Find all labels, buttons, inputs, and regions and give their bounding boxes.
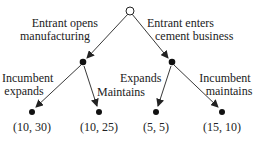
branch-label-entrant-enters-cement: Entrant enters cement business [147,17,233,43]
label-line: expands [2,85,46,98]
branch-label-expands: Expands [120,72,161,85]
label-line: manufacturing [20,30,90,43]
payoff-4: (15, 10) [197,121,247,134]
label-line: cement business [155,30,233,43]
branch-label-incumbent-expands: Incumbent expands [2,72,46,98]
branch-label-entrant-opens-manufacturing: Entrant opens manufacturing [20,17,98,43]
leaf-node-1 [29,109,35,115]
payoff-2: (10, 25) [74,121,124,134]
payoff-1: (10, 30) [7,121,57,134]
leaf-node-4 [219,109,225,115]
branch-label-incumbent-maintains: Incumbent maintains [194,72,256,98]
payoff-3: (5, 5) [131,121,181,134]
left-decision-node [80,59,87,66]
branch-label-maintains: Maintains [97,86,145,99]
label-line: Expands [120,71,161,85]
leaf-node-2 [96,109,102,115]
root-node [126,7,134,15]
label-line: Maintains [97,85,145,99]
leaf-node-3 [153,109,159,115]
right-decision-node [169,59,176,66]
label-line: maintains [202,85,256,98]
